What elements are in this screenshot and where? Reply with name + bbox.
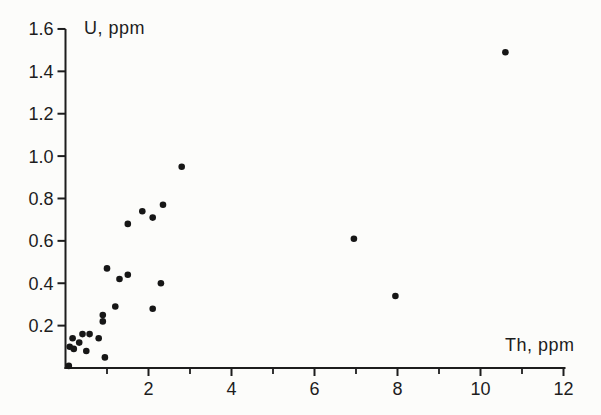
- x-tick-label: 4: [226, 379, 236, 399]
- data-point: [100, 318, 107, 325]
- data-point: [139, 208, 146, 215]
- data-point: [178, 163, 185, 170]
- data-point: [71, 346, 78, 353]
- data-point: [104, 265, 111, 272]
- x-axis-title: Th, ppm: [505, 335, 575, 356]
- data-point: [149, 305, 156, 312]
- data-point: [158, 280, 165, 287]
- x-tick-label: 6: [309, 379, 319, 399]
- y-axis-title: U, ppm: [84, 18, 145, 39]
- data-point: [125, 272, 132, 279]
- figure-canvas: 0.20.40.60.81.01.21.41.624681012 U, ppm …: [0, 0, 601, 415]
- data-point: [116, 276, 123, 283]
- x-tick-label: 12: [553, 379, 573, 399]
- y-tick-label: 1.4: [28, 62, 53, 82]
- data-point: [502, 49, 509, 56]
- data-point: [112, 303, 119, 310]
- data-point: [95, 335, 102, 342]
- data-point: [69, 335, 76, 342]
- y-tick-label: 0.8: [28, 189, 53, 209]
- x-tick-label: 2: [143, 379, 153, 399]
- data-point: [351, 235, 358, 242]
- y-tick-label: 1.2: [28, 104, 53, 124]
- data-point: [66, 363, 73, 370]
- x-tick-label: 10: [470, 379, 490, 399]
- y-tick-label: 0.2: [28, 316, 53, 336]
- data-point: [102, 354, 109, 361]
- data-point: [100, 312, 107, 319]
- data-point: [149, 214, 156, 221]
- data-point: [79, 331, 86, 338]
- x-tick-label: 8: [392, 379, 402, 399]
- y-tick-label: 1.6: [28, 19, 53, 39]
- y-tick-label: 1.0: [28, 147, 53, 167]
- data-point: [83, 348, 90, 355]
- data-point: [125, 221, 132, 228]
- data-point: [392, 293, 399, 300]
- data-point: [76, 339, 83, 346]
- data-point: [86, 331, 93, 338]
- data-point: [160, 202, 167, 209]
- y-tick-label: 0.6: [28, 231, 53, 251]
- y-tick-label: 0.4: [28, 274, 53, 294]
